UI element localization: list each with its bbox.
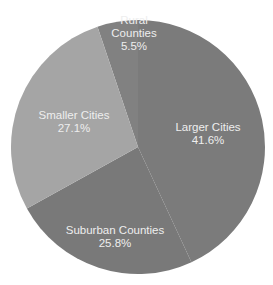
slice-value: 5.5%: [111, 40, 156, 53]
slice-value: 25.8%: [66, 237, 164, 250]
slice-label-smaller-cities: Smaller Cities 27.1%: [39, 109, 110, 135]
slice-value: 27.1%: [39, 122, 110, 135]
slice-name-line: Smaller Cities: [39, 109, 110, 122]
slice-value: 41.6%: [175, 134, 240, 147]
slice-name-line: Larger Cities: [175, 121, 240, 134]
slice-label-suburban-counties: Suburban Counties 25.8%: [66, 224, 164, 250]
slice-name-line: Rural: [111, 14, 156, 27]
slice-name-line: Suburban Counties: [66, 224, 164, 237]
pie-chart: Rural Counties 5.5% Larger Cities 41.6% …: [0, 0, 273, 285]
slice-name-line: Counties: [111, 27, 156, 40]
slice-label-rural-counties: Rural Counties 5.5%: [111, 14, 156, 53]
slice-label-larger-cities: Larger Cities 41.6%: [175, 121, 240, 147]
